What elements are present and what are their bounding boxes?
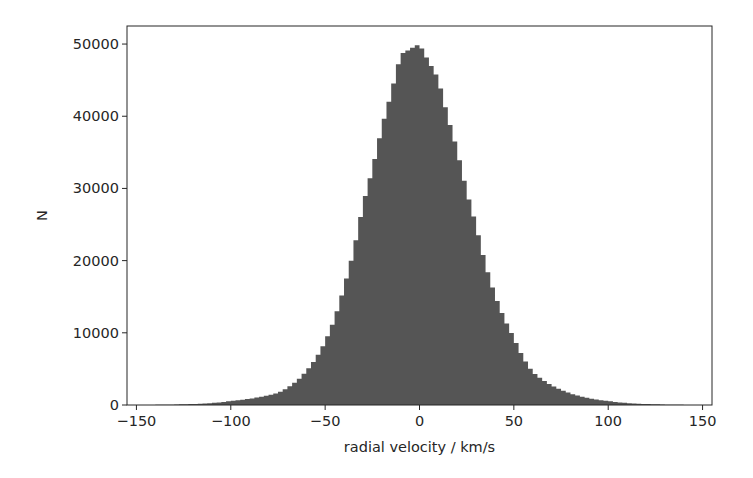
y-tick-label: 30000 [73,180,119,196]
x-tick-label: 50 [505,413,523,429]
x-tick-label: 150 [689,413,717,429]
histogram-figure: −150−100−50050100150 0100002000030000400… [0,0,753,478]
x-tick-label: 0 [415,413,424,429]
x-tick-label: −50 [310,413,341,429]
y-axis-label: N [34,210,50,221]
x-tick-label: 100 [594,413,622,429]
y-axis-ticks: 01000020000300004000050000 [73,36,127,413]
x-tick-label: −150 [117,413,157,429]
y-tick-label: 0 [110,397,119,413]
histogram-bar-path [136,45,702,405]
x-axis-label: radial velocity / km/s [344,439,495,455]
y-tick-label: 20000 [73,253,119,269]
x-tick-label: −100 [211,413,251,429]
y-tick-label: 40000 [73,108,119,124]
histogram-bars [136,45,702,405]
y-tick-label: 10000 [73,325,119,341]
x-axis-ticks: −150−100−50050100150 [117,405,717,429]
y-tick-label: 50000 [73,36,119,52]
